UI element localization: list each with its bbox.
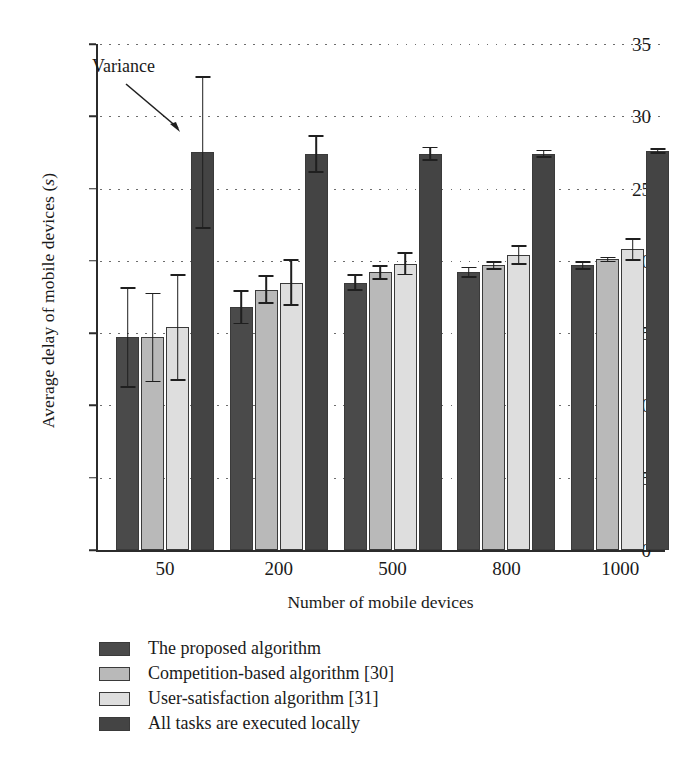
bar[interactable] [255,290,278,550]
error-bar-cap-upper [398,252,413,254]
y-tick-mark [89,43,96,45]
error-bar-cap-upper [348,274,363,276]
y-tick-mark [89,405,96,407]
error-bar-stem [518,245,520,265]
bar[interactable] [457,272,480,550]
error-bar-stem [177,274,179,381]
error-bar-cap-lower [309,171,324,173]
bar[interactable] [621,249,644,550]
bar[interactable] [571,265,594,550]
error-bar-cap-lower [511,263,526,265]
variance-annotation-label: Variance [92,56,155,77]
error-bar-stem [266,275,268,304]
legend-item[interactable]: The proposed algorithm [99,636,559,661]
y-axis-line [96,44,98,552]
error-bar-stem [632,238,634,261]
error-bar-cap-upper [234,290,249,292]
y-axis-title-unit: s [38,179,58,186]
error-bar-cap-upper [145,293,160,295]
error-bar-cap-upper [284,259,299,261]
bar[interactable] [419,154,442,550]
legend-swatch [99,642,130,656]
error-bar-stem [404,252,406,275]
bar[interactable] [596,259,619,550]
error-bar-cap-lower [536,156,551,158]
legend-label: The proposed algorithm [148,638,321,659]
x-axis-title: Number of mobile devices [96,592,665,613]
y-axis-title-main: Average delay of mobile devices ( [38,186,58,429]
bar-group [457,44,555,550]
error-bar-cap-lower [373,278,388,280]
bar-chart-figure: Average delay of mobile devices (s) 0510… [0,0,677,762]
legend-label: User-satisfaction algorithm [31] [148,688,379,709]
error-bar-cap-lower [461,276,476,278]
error-bar-cap-upper [575,261,590,263]
error-bar-cap-lower [625,259,640,261]
bar-group [344,44,442,550]
error-bar-cap-upper [600,257,615,259]
x-tick-label: 1000 [560,558,677,580]
error-bar-cap-lower [195,227,210,229]
error-bar-cap-upper [423,147,438,149]
legend-swatch [99,667,130,681]
error-bar-cap-lower [600,261,615,263]
plot-area: 05101520253035 502005008001000 [96,44,665,552]
error-bar-stem [152,293,154,383]
error-bar-cap-lower [398,274,413,276]
error-bar-stem [202,76,204,229]
x-tick-label: 50 [105,558,225,580]
bar[interactable] [305,154,328,550]
bar[interactable] [369,272,392,550]
legend-swatch [99,692,130,706]
bar[interactable] [482,265,505,550]
chart-legend: The proposed algorithmCompetition-based … [99,636,559,736]
y-tick-mark [89,477,96,479]
bar[interactable] [230,307,253,550]
error-bar-cap-lower [348,289,363,291]
legend-label: Competition-based algorithm [30] [148,663,394,684]
error-bar-cap-lower [486,268,501,270]
error-bar-cap-upper [259,275,274,277]
bar[interactable] [507,255,530,550]
legend-swatch [99,717,130,731]
error-bar-cap-lower [145,381,160,383]
y-tick-mark [89,188,96,190]
error-bar-cap-lower [259,302,274,304]
legend-item[interactable]: All tasks are executed locally [99,711,559,736]
legend-label: All tasks are executed locally [148,713,360,734]
error-bar-cap-lower [650,152,665,154]
error-bar-cap-lower [284,304,299,306]
error-bar-cap-lower [423,159,438,161]
y-tick-mark [89,260,96,262]
bar-group [116,44,214,550]
bar-group [230,44,328,550]
x-tick-label: 800 [446,558,566,580]
error-bar-cap-lower [575,268,590,270]
error-bar-cap-upper [309,135,324,137]
y-tick-mark [89,549,96,551]
error-bar-stem [127,287,129,388]
bar[interactable] [532,154,555,550]
y-axis-title-tail: ) [38,173,58,179]
bar[interactable] [344,283,367,550]
legend-item[interactable]: User-satisfaction algorithm [31] [99,686,559,711]
error-bar-stem [291,259,293,305]
error-bar-cap-upper [170,274,185,276]
y-tick-mark [89,116,96,118]
bar[interactable] [646,151,669,550]
x-axis-line [96,550,665,552]
error-bar-cap-upper [461,267,476,269]
bar[interactable] [394,264,417,550]
error-bar-stem [241,290,243,325]
error-bar-cap-upper [650,148,665,150]
x-tick-label: 200 [219,558,339,580]
legend-item[interactable]: Competition-based algorithm [30] [99,661,559,686]
error-bar-cap-upper [373,265,388,267]
error-bar-cap-upper [486,261,501,263]
error-bar-cap-upper [511,245,526,247]
error-bar-cap-upper [120,287,135,289]
bar[interactable] [280,283,303,550]
error-bar-cap-lower [170,379,185,381]
y-axis-title: Average delay of mobile devices (s) [38,71,59,531]
error-bar-cap-upper [536,150,551,152]
